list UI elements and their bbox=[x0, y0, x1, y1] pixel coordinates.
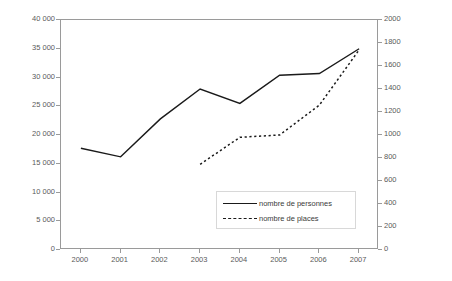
left-axis-tick-mark bbox=[56, 192, 60, 193]
left-axis-tick-mark bbox=[56, 163, 60, 164]
left-axis-tick-mark bbox=[56, 77, 60, 78]
right-axis-tick-mark bbox=[378, 65, 382, 66]
left-axis-tick-mark bbox=[56, 19, 60, 20]
x-axis-tick-label: 2005 bbox=[270, 256, 287, 264]
line-chart: 05 00010 00015 00020 00025 00030 00035 0… bbox=[0, 0, 452, 281]
right-axis-tick-mark bbox=[378, 134, 382, 135]
x-axis-tick-label: 2003 bbox=[191, 256, 208, 264]
right-axis-tick-mark bbox=[378, 226, 382, 227]
legend-label: nombre de personnes bbox=[257, 199, 332, 208]
legend-swatch-solid-line-icon bbox=[223, 200, 257, 208]
chart-legend: nombre de personnes nombre de places bbox=[216, 191, 356, 229]
x-axis-tick-mark bbox=[159, 249, 160, 253]
legend-item-nombre-de-personnes: nombre de personnes bbox=[223, 196, 349, 211]
right-axis-tick-mark bbox=[378, 19, 382, 20]
x-axis-tick-mark bbox=[199, 249, 200, 253]
left-axis-tick-mark bbox=[56, 249, 60, 250]
right-axis-tick-mark bbox=[378, 249, 382, 250]
right-axis-tick-mark bbox=[378, 180, 382, 181]
x-axis-tick-label: 2000 bbox=[72, 256, 89, 264]
left-axis-tick-mark bbox=[56, 134, 60, 135]
right-axis-tick-mark bbox=[378, 111, 382, 112]
x-axis-tick-mark bbox=[318, 249, 319, 253]
x-axis-tick-mark bbox=[279, 249, 280, 253]
legend-label: nombre de places bbox=[257, 214, 319, 223]
x-axis-tick-label: 2002 bbox=[151, 256, 168, 264]
left-axis-tick-mark bbox=[56, 105, 60, 106]
left-axis-tick-mark bbox=[56, 48, 60, 49]
x-axis-tick-label: 2006 bbox=[310, 256, 327, 264]
right-axis-tick-mark bbox=[378, 42, 382, 43]
right-axis-tick-mark bbox=[378, 203, 382, 204]
x-axis-tick-label: 2004 bbox=[231, 256, 248, 264]
x-axis-tick-mark bbox=[358, 249, 359, 253]
series-nombre-de-places-line bbox=[200, 50, 359, 164]
x-axis-tick-mark bbox=[80, 249, 81, 253]
left-axis-tick-mark bbox=[56, 220, 60, 221]
x-axis-tick-mark bbox=[239, 249, 240, 253]
x-axis-tick-label: 2001 bbox=[111, 256, 128, 264]
right-axis-tick-mark bbox=[378, 88, 382, 89]
series-nombre-de-personnes-line bbox=[81, 49, 359, 157]
x-axis-tick-label: 2007 bbox=[350, 256, 367, 264]
right-axis-tick-mark bbox=[378, 157, 382, 158]
x-axis-tick-mark bbox=[120, 249, 121, 253]
legend-item-nombre-de-places: nombre de places bbox=[223, 211, 349, 226]
legend-swatch-dashed-line-icon bbox=[223, 215, 257, 223]
